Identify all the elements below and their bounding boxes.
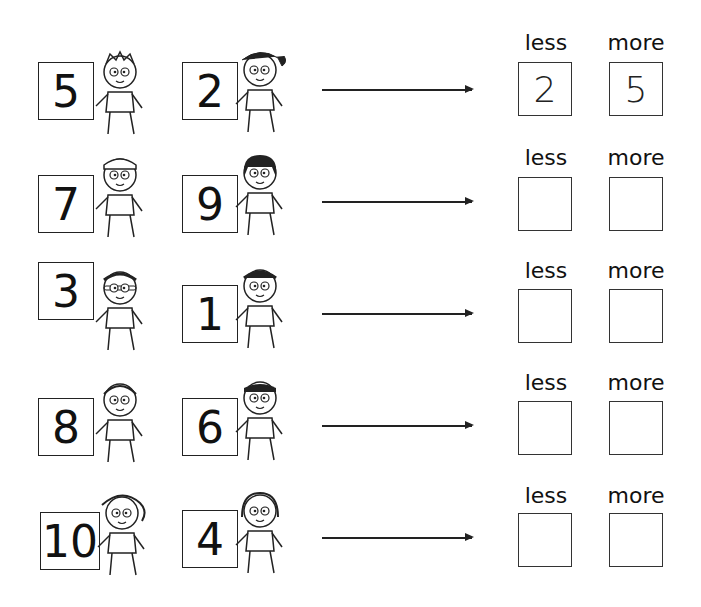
child-illustration (92, 491, 152, 585)
more-answer-box[interactable]: 5 (609, 62, 663, 116)
less-answer-box[interactable] (518, 177, 572, 231)
number-card-a: 5 (38, 62, 94, 120)
less-label: less (511, 258, 581, 283)
arrow (322, 313, 472, 315)
less-answer-box[interactable] (518, 513, 572, 567)
more-answer-box[interactable] (609, 513, 663, 567)
number-card-a: 8 (38, 398, 94, 456)
exercise-row: 10 4 less more (0, 483, 701, 593)
less-label: less (511, 370, 581, 395)
more-label: more (601, 30, 671, 55)
arrow (322, 89, 472, 91)
arrow (322, 537, 472, 539)
more-answer-box[interactable] (609, 177, 663, 231)
number-card-a: 10 (40, 512, 100, 570)
child-illustration (90, 378, 150, 472)
less-label: less (511, 30, 581, 55)
less-label: less (511, 483, 581, 508)
less-answer-box[interactable] (518, 289, 572, 343)
arrow (322, 201, 472, 203)
more-label: more (601, 145, 671, 170)
more-label: more (601, 370, 671, 395)
exercise-row: 8 6 less more (0, 370, 701, 480)
less-label: less (511, 145, 581, 170)
more-label: more (601, 258, 671, 283)
child-illustration (230, 151, 290, 245)
child-illustration (230, 489, 290, 583)
more-answer-box[interactable] (609, 289, 663, 343)
child-illustration (230, 48, 290, 142)
more-label: more (601, 483, 671, 508)
number-card-a: 3 (38, 262, 94, 320)
number-card-a: 7 (38, 175, 94, 233)
arrow (322, 425, 472, 427)
child-illustration (90, 153, 150, 247)
exercise-row: 5 2 less more 2 5 (0, 30, 701, 140)
exercise-row: 7 9 less more (0, 145, 701, 255)
child-illustration (90, 50, 150, 144)
child-illustration (90, 266, 150, 360)
exercise-row: 3 1 less more (0, 258, 701, 368)
child-illustration (230, 264, 290, 358)
more-answer-box[interactable] (609, 401, 663, 455)
less-answer-box[interactable] (518, 401, 572, 455)
child-illustration (230, 376, 290, 470)
less-answer-box[interactable]: 2 (518, 62, 572, 116)
